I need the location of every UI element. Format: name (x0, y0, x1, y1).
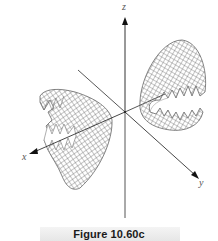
x-axis-label: x (22, 152, 26, 162)
z-axis-label: z (122, 2, 126, 12)
z-axis-arrowhead (122, 17, 128, 25)
figure-caption: Figure 10.60c (0, 228, 218, 240)
origin-point (124, 111, 126, 113)
left-sheet (40, 89, 112, 189)
y-axis-label: y (199, 178, 203, 188)
right-sheet (140, 40, 206, 130)
x-axis-arrowhead (29, 148, 38, 154)
3d-surface-figure (0, 0, 218, 226)
